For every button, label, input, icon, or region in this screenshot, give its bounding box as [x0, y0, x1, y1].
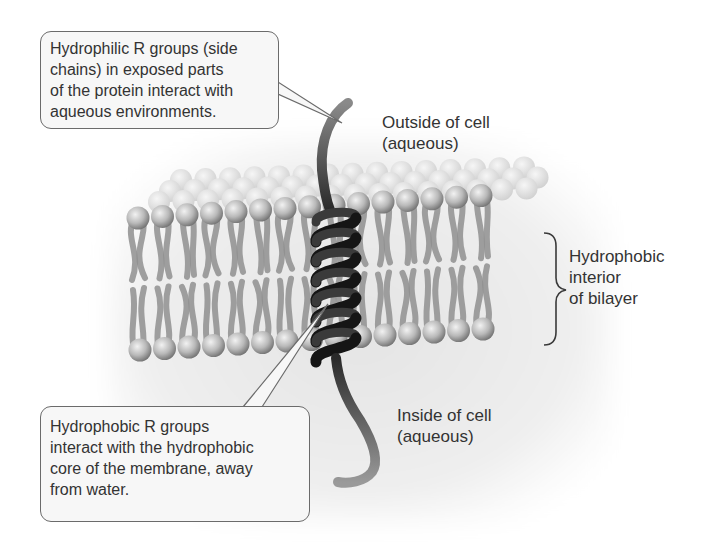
label-line: Outside of cell — [382, 112, 490, 133]
phospholipid-head — [227, 333, 250, 356]
label-line: interior — [569, 267, 664, 288]
label-inside-of-cell: Inside of cell (aqueous) — [397, 405, 492, 447]
phospholipid-head — [374, 324, 397, 347]
phospholipid-head — [153, 337, 176, 360]
phospholipid-head — [202, 334, 225, 357]
phospholipid-head — [421, 187, 444, 210]
phospholipid-head — [225, 200, 248, 223]
phospholipid-head — [398, 322, 421, 345]
label-outside-of-cell: Outside of cell (aqueous) — [382, 112, 490, 154]
callout-line: Hydrophobic R groups — [50, 416, 301, 437]
leader-line-top — [278, 82, 342, 123]
label-line: Inside of cell — [397, 405, 492, 426]
phospholipid-head — [472, 318, 495, 341]
callout-hydrophilic-r-groups: Hydrophilic R groups (side chains) in ex… — [40, 31, 279, 129]
phospholipid-head — [178, 336, 201, 359]
label-hydrophobic-interior: Hydrophobic interior of bilayer — [569, 246, 664, 309]
label-line: (aqueous) — [397, 426, 492, 447]
label-line: Hydrophobic — [569, 246, 664, 267]
callout-line: Hydrophilic R groups (side — [50, 38, 270, 59]
phospholipid-head — [445, 186, 468, 209]
label-line: of bilayer — [569, 288, 664, 309]
phospholipid-head — [447, 319, 470, 342]
phospholipid-head — [274, 197, 297, 220]
phospholipid-head — [176, 203, 199, 226]
phospholipid-head — [491, 178, 513, 200]
callout-line: core of the membrane, away — [50, 458, 301, 479]
phospholipid-head — [423, 321, 446, 344]
callout-hydrophobic-r-groups: Hydrophobic R groups interact with the h… — [40, 406, 310, 522]
phospholipid-head — [470, 184, 493, 207]
phospholipid-head — [516, 178, 538, 200]
callout-line: chains) in exposed parts — [50, 59, 270, 80]
phospholipid-head — [127, 207, 150, 230]
phospholipid-head — [372, 191, 395, 214]
callout-line: interact with the hydrophobic — [50, 437, 301, 458]
label-line: (aqueous) — [382, 133, 490, 154]
phospholipid-head — [251, 331, 274, 354]
callout-line: of the protein interact with — [50, 80, 270, 101]
phospholipid-head — [396, 189, 419, 212]
phospholipid-head — [249, 199, 272, 222]
phospholipid-head — [129, 339, 152, 362]
callout-line: aqueous environments. — [50, 101, 270, 122]
callout-line: from water. — [50, 479, 301, 500]
phospholipid-head — [200, 202, 223, 225]
phospholipid-head — [151, 205, 174, 228]
